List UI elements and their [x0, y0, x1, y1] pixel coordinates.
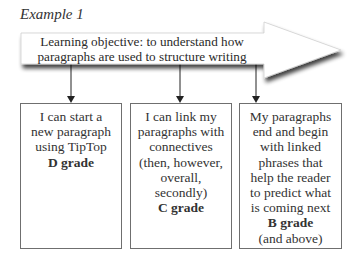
criteria-text: paragraphs with — [131, 124, 231, 139]
criteria-text: (then, however, — [131, 155, 231, 170]
grade-label: B grade — [240, 215, 341, 230]
arrowhead-down-icon — [252, 96, 260, 103]
criteria-text: phrases that — [240, 155, 341, 170]
criteria-text: overall, — [131, 170, 231, 185]
grade-label: C grade — [131, 200, 231, 215]
grade-label: D grade — [21, 155, 121, 170]
arrowhead-down-icon — [176, 96, 184, 103]
criteria-text: secondly) — [131, 185, 231, 200]
objective-line-1: Learning objective: to understand how — [22, 34, 262, 49]
criteria-text: new paragraph — [21, 124, 121, 139]
criteria-text: I can start a — [21, 109, 121, 124]
down-arrows — [71, 64, 256, 97]
learning-objective-text: Learning objective: to understand how pa… — [22, 34, 262, 64]
criteria-text: I can link my — [131, 109, 231, 124]
criteria-text: using TipTop — [21, 139, 121, 154]
criteria-text: with linked — [240, 139, 341, 154]
criteria-text: help the reader — [240, 170, 341, 185]
criteria-text: end and begin — [240, 124, 341, 139]
criteria-box-d-grade: I can start a new paragraph using TipTop… — [20, 103, 122, 249]
criteria-text: My paragraphs — [240, 109, 341, 124]
arrowhead-down-icon — [67, 96, 75, 103]
objective-line-2: paragraphs are used to structure writing — [22, 49, 262, 64]
criteria-box-c-grade: I can link my paragraphs with connective… — [130, 103, 232, 249]
criteria-text: is coming next — [240, 200, 341, 215]
criteria-box-b-grade: My paragraphs end and begin with linked … — [239, 103, 342, 249]
criteria-text: to predict what — [240, 185, 341, 200]
criteria-text: connectives — [131, 139, 231, 154]
grade-note: (and above) — [240, 231, 341, 246]
